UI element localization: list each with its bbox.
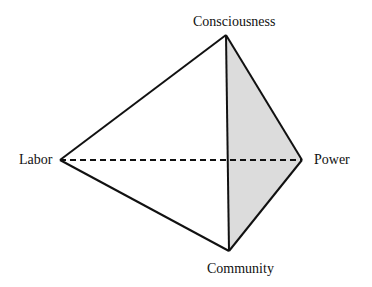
- label-community: Community: [207, 262, 274, 276]
- label-power: Power: [314, 153, 350, 167]
- edge-labor-consciousness: [60, 35, 226, 160]
- tetrahedron-diagram: [0, 0, 372, 287]
- label-consciousness: Consciousness: [193, 15, 275, 29]
- label-labor: Labor: [19, 153, 52, 167]
- edge-labor-community: [60, 160, 229, 251]
